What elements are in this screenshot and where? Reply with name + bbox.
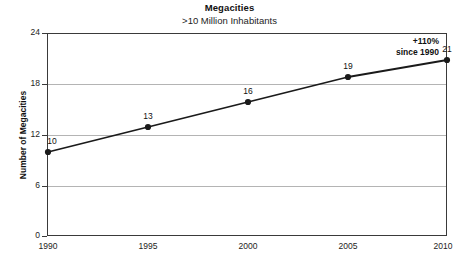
data-point-1995 [145,124,151,130]
data-point-2000 [245,99,251,105]
series-line-megacities [48,60,447,152]
data-point-1990 [45,149,51,155]
growth-annotation-line2: since 1990 [396,47,439,58]
growth-annotation-line1: +110% [396,36,439,47]
data-label-1995: 13 [128,111,168,121]
megacities-line-chart: Megacities >10 Million Inhabitants Numbe… [0,0,459,272]
growth-annotation: +110% since 1990 [396,36,439,58]
data-label-1990: 10 [32,136,72,146]
data-point-2010 [444,57,450,63]
data-point-2005 [345,74,351,80]
data-label-2005: 19 [328,61,368,71]
data-label-2000: 16 [228,86,268,96]
